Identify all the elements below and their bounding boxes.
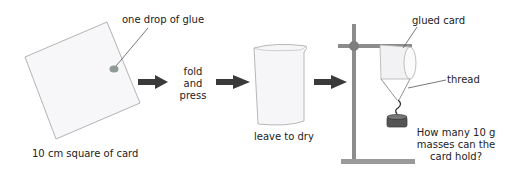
- arrow-right-icon: [138, 75, 168, 89]
- arrow-right-icon: [314, 75, 347, 89]
- thread: [381, 79, 446, 100]
- question-line-1: How many 10 g: [408, 127, 504, 139]
- retort-stand: [338, 24, 415, 164]
- glued-card-tube: [380, 27, 417, 79]
- glue-annotation: one drop of glue: [122, 14, 204, 26]
- glue-drop-icon: [110, 66, 119, 73]
- arrow-right-icon: [216, 75, 250, 89]
- dry-label: leave to dry: [254, 131, 314, 143]
- boss-clamp-icon: [349, 41, 359, 51]
- thread-annotation: thread: [447, 74, 480, 86]
- and-line: and: [173, 78, 213, 90]
- press-line: press: [173, 90, 213, 102]
- question-label: How many 10 g masses can the card hold?: [408, 127, 504, 163]
- card-square: [25, 22, 148, 139]
- glue-pointer-line: [116, 28, 148, 66]
- fold-line: fold: [173, 66, 213, 78]
- card-label: 10 cm square of card: [32, 148, 138, 160]
- folded-card: [254, 44, 307, 125]
- question-line-2: masses can the: [408, 139, 504, 151]
- glued-card-annotation: glued card: [412, 15, 465, 27]
- mass-hanger: [387, 100, 407, 127]
- question-line-3: card hold?: [408, 151, 504, 163]
- fold-press-label: fold and press: [173, 66, 213, 102]
